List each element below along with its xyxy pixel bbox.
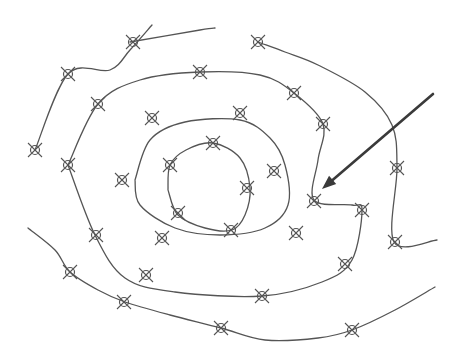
circle-with-x-icon	[307, 194, 321, 208]
contour-map-svg	[0, 0, 465, 356]
circle-with-x-icon	[255, 289, 269, 303]
circle-with-x-icon	[126, 35, 140, 49]
contour-line-ring-1	[135, 119, 289, 235]
arrow-shaft	[333, 94, 433, 180]
circle-with-x-icon	[139, 268, 153, 282]
circle-with-x-icon	[289, 226, 303, 240]
circle-with-x-icon	[355, 203, 369, 217]
circle-with-x-icon	[251, 35, 265, 49]
contour-line-ring-3-top	[258, 42, 437, 247]
circle-with-x-icon	[214, 321, 228, 335]
circle-with-x-icon	[345, 323, 359, 337]
contour-line-innermost	[168, 143, 250, 231]
contour-lines	[28, 25, 437, 341]
circle-with-x-icon	[63, 265, 77, 279]
circle-with-x-icon	[91, 97, 105, 111]
circle-with-x-icon	[206, 136, 220, 150]
circle-with-x-icon	[61, 158, 75, 172]
circle-with-x-icon	[338, 257, 352, 271]
circle-with-x-icon	[115, 173, 129, 187]
circle-with-x-icon	[390, 161, 404, 175]
circle-with-x-icon	[145, 111, 159, 125]
circle-with-x-icon	[171, 206, 185, 220]
circle-with-x-icon	[155, 231, 169, 245]
pointer-arrow	[322, 94, 433, 189]
circle-with-x-icon	[240, 181, 254, 195]
circle-with-x-icon	[193, 65, 207, 79]
circle-with-x-icon	[287, 86, 301, 100]
circle-with-x-icon	[117, 295, 131, 309]
circle-with-x-icon	[89, 228, 103, 242]
circle-with-x-icon	[61, 67, 75, 81]
circle-with-x-icon	[267, 164, 281, 178]
circle-with-x-icon	[388, 235, 402, 249]
contour-line-ring-2	[68, 72, 362, 297]
contour-diagram	[0, 0, 465, 356]
circle-with-x-icon	[163, 158, 177, 172]
circle-with-x-icon	[316, 117, 330, 131]
circle-with-x-icon	[28, 143, 42, 157]
contour-line-outer-bottom	[28, 228, 435, 341]
circle-with-x-icon	[224, 223, 238, 237]
circle-with-x-icon	[233, 106, 247, 120]
